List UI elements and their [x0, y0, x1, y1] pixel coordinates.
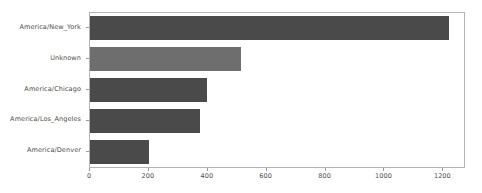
y-axis-ticks [86, 12, 89, 166]
x-axis-tick [442, 168, 443, 171]
bar-row [90, 109, 200, 133]
y-tick-label: America/Chicago [0, 85, 81, 93]
bar-row [90, 78, 207, 102]
bar-row [90, 140, 149, 164]
x-axis-tick-labels: 020040060080010001200 [89, 172, 465, 184]
y-axis-tick [86, 151, 89, 152]
plot-area [89, 12, 465, 168]
x-tick-label: 800 [318, 172, 331, 180]
y-axis-tick [86, 58, 89, 59]
bar-row [90, 47, 241, 71]
x-axis-tick [148, 168, 149, 171]
bar-america-denver [90, 140, 149, 164]
bar-america-new-york [90, 16, 449, 40]
x-tick-label: 1000 [375, 172, 392, 180]
y-axis-tick [86, 89, 89, 90]
y-axis-tick-labels: America/New_York Unknown America/Chicago… [0, 12, 85, 168]
x-axis-tick [207, 168, 208, 171]
bar-unknown [90, 47, 241, 71]
y-axis-tick [86, 120, 89, 121]
bar-america-chicago [90, 78, 207, 102]
x-axis-tick [89, 168, 90, 171]
x-axis-tick [325, 168, 326, 171]
x-axis-tick [266, 168, 267, 171]
x-tick-label: 1200 [434, 172, 451, 180]
x-tick-label: 600 [259, 172, 272, 180]
y-tick-label: America/Denver [0, 146, 81, 154]
bar-chart: America/New_York Unknown America/Chicago… [0, 0, 482, 193]
x-tick-label: 400 [200, 172, 213, 180]
y-tick-label: America/Los_Angeles [0, 115, 81, 123]
bar-america-los-angeles [90, 109, 200, 133]
x-tick-label: 200 [142, 172, 155, 180]
bar-row [90, 16, 449, 40]
y-tick-label: Unknown [0, 54, 81, 62]
x-axis-tick [383, 168, 384, 171]
x-tick-label: 0 [87, 172, 91, 180]
y-tick-label: America/New_York [0, 23, 81, 31]
y-axis-tick [86, 27, 89, 28]
